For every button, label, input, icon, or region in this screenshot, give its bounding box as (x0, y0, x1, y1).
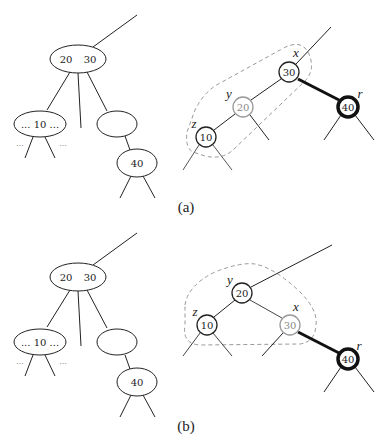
label-r: r (356, 338, 362, 353)
edge-x-r-bold (298, 332, 339, 353)
root-key-1: 20 (60, 272, 73, 283)
edge-40-left (120, 395, 131, 417)
node-y-key: 20 (237, 102, 250, 113)
edge-y-parent (251, 245, 332, 287)
edge-r-left (324, 115, 341, 140)
edge-root-left (47, 72, 70, 110)
node-10-label: ... 10 ... (21, 119, 59, 130)
node-x-key: 30 (283, 67, 296, 78)
caption-a: (a) (178, 199, 195, 216)
node-y-key: 20 (236, 288, 249, 299)
edge-root-right (87, 72, 107, 111)
root-parent-edge (93, 233, 137, 265)
edge-empty-40 (125, 355, 130, 369)
edge-10-right (45, 137, 55, 158)
label-z: z (191, 304, 197, 319)
dots-left: ... (16, 139, 24, 148)
label-y: y (225, 272, 233, 287)
edge-root-middle (78, 73, 81, 128)
root-node (50, 45, 106, 73)
edge-root-middle (78, 291, 81, 346)
root-key-2: 30 (84, 272, 97, 283)
edge-r-right (355, 115, 374, 140)
edge-r-left (324, 367, 341, 392)
label-x: x (292, 299, 299, 314)
panel-a-left-tree (14, 15, 157, 198)
edge-10-left (25, 355, 33, 376)
edge-y-z (214, 300, 235, 317)
edge-x-y (251, 79, 281, 100)
dots-right: ... (59, 357, 67, 366)
node-x-key: 30 (284, 320, 297, 331)
root-parent-edge (93, 15, 137, 47)
edge-40-left (120, 176, 131, 198)
panel-a: 20 30 ... 10 ... ... ... 40 30 20 (14, 15, 374, 216)
root-key-2: 30 (84, 54, 97, 65)
panel-a-right-tree (183, 27, 374, 170)
edge-40-right (143, 176, 155, 198)
edge-y-x (250, 300, 282, 318)
tree-rotation-diagram: 20 30 ... 10 ... ... ... 40 30 20 (0, 0, 390, 442)
edge-r-right (355, 367, 374, 392)
node-z-key: 10 (201, 320, 214, 331)
edge-root-left (47, 290, 70, 327)
root-key-1: 20 (60, 54, 73, 65)
node-40-label: 40 (131, 377, 144, 388)
edge-40-right (143, 395, 155, 417)
label-r: r (357, 86, 363, 101)
edge-x-r-bold (298, 79, 339, 100)
node-10-label: ... 10 ... (21, 337, 59, 348)
node-empty (97, 111, 137, 137)
panel-b: 20 30 ... 10 ... ... ... 40 20 10 30 40 … (14, 233, 374, 435)
panel-b-left-tree (14, 233, 157, 417)
dots-right: ... (59, 139, 67, 148)
node-empty (97, 329, 137, 355)
node-z-key: 10 (200, 132, 213, 143)
edge-root-right (87, 290, 107, 328)
edge-empty-40 (125, 136, 130, 150)
edge-x-parent (296, 27, 331, 64)
edge-10-left (25, 137, 33, 158)
root-node (50, 263, 106, 291)
node-r-key: 40 (342, 354, 355, 365)
caption-b: (b) (177, 418, 195, 435)
dots-left: ... (16, 357, 24, 366)
edge-y-z (214, 114, 235, 130)
node-40-label: 40 (131, 158, 144, 169)
label-z: z (190, 116, 196, 131)
edge-z-left (183, 145, 199, 170)
label-y: y (224, 86, 232, 101)
panel-b-right-tree (183, 245, 374, 392)
edge-10-right (45, 355, 55, 376)
node-r-key: 40 (342, 102, 355, 113)
label-x: x (292, 45, 299, 60)
